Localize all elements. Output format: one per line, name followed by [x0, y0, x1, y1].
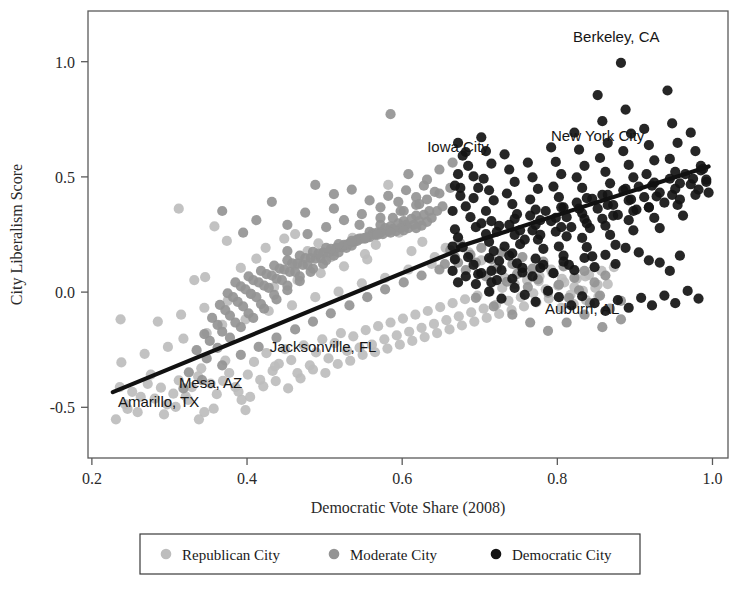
data-point [504, 164, 514, 174]
data-point [523, 158, 533, 168]
data-point [450, 254, 460, 264]
legend-label-1[interactable]: Republican City [182, 547, 280, 563]
data-point [414, 199, 424, 209]
data-point [525, 194, 535, 204]
data-point [354, 220, 364, 230]
data-point [662, 85, 672, 95]
data-point [256, 266, 266, 276]
annotation-label: Amarillo, TX [118, 393, 199, 410]
chart-legend[interactable]: Republican CityModerate CityDemocratic C… [140, 534, 640, 574]
data-point [489, 301, 499, 311]
data-point [579, 253, 589, 263]
data-point [649, 155, 659, 165]
data-point [407, 336, 417, 346]
data-point [577, 183, 587, 193]
data-point [507, 199, 517, 209]
data-point [174, 204, 184, 214]
data-point [579, 161, 589, 171]
legend-swatch-2 [329, 549, 340, 560]
data-point [494, 221, 504, 231]
data-point [600, 270, 610, 280]
data-point [362, 292, 372, 302]
data-point [476, 218, 486, 228]
data-point [156, 383, 166, 393]
data-point [380, 284, 390, 294]
data-point [347, 184, 357, 194]
data-point [434, 264, 444, 274]
data-point [287, 300, 297, 310]
data-point [473, 183, 483, 193]
data-point [361, 325, 371, 335]
data-point [486, 158, 496, 168]
data-point [600, 250, 610, 260]
data-point [486, 266, 496, 276]
data-point [613, 210, 623, 220]
data-point [178, 334, 188, 344]
data-point [579, 266, 589, 276]
data-point [209, 404, 219, 414]
data-point [373, 321, 383, 331]
data-point [510, 177, 520, 187]
data-point [636, 293, 646, 303]
data-point [610, 240, 620, 250]
data-point [574, 145, 584, 155]
data-point [236, 350, 246, 360]
data-point [572, 172, 582, 182]
data-point [600, 167, 610, 177]
data-point [254, 342, 264, 352]
data-point [423, 306, 433, 316]
data-point [647, 300, 657, 310]
data-point [339, 215, 349, 225]
chart-canvas: 0.20.40.60.81.01.00.50.0-0.5 Berkeley, C… [0, 0, 742, 603]
x-tick-label: 0.2 [82, 470, 102, 487]
scatter-plot-figure: 0.20.40.60.81.01.00.50.0-0.5 Berkeley, C… [0, 0, 742, 603]
data-point [589, 262, 599, 272]
data-point [628, 225, 638, 235]
data-point [329, 189, 339, 199]
data-point [339, 261, 349, 271]
data-point [209, 221, 219, 231]
data-point [461, 201, 471, 211]
data-point [401, 185, 411, 195]
data-point [333, 359, 343, 369]
data-point [375, 213, 385, 223]
data-point [453, 169, 463, 179]
data-point [520, 234, 530, 244]
data-point [465, 212, 475, 222]
data-point [641, 169, 651, 179]
data-point [541, 206, 551, 216]
annotation-label: Auburn, AL [545, 300, 619, 317]
data-point [159, 409, 169, 419]
data-point [375, 202, 385, 212]
data-point [502, 188, 512, 198]
data-point [504, 251, 514, 261]
data-point [484, 185, 494, 195]
data-point [670, 298, 680, 308]
data-point [628, 172, 638, 182]
x-axis-title: Democratic Vote Share (2008) [311, 499, 505, 517]
data-point [194, 414, 204, 424]
data-point [261, 243, 271, 253]
data-point [566, 222, 576, 232]
data-point [196, 363, 206, 373]
data-point [582, 218, 592, 228]
data-point [329, 204, 339, 214]
data-point [605, 230, 615, 240]
data-point [310, 180, 320, 190]
data-point [675, 194, 685, 204]
data-point [398, 314, 408, 324]
legend-label-2[interactable]: Moderate City [350, 547, 438, 563]
data-point [507, 274, 517, 284]
data-point [140, 349, 150, 359]
x-tick-label: 0.4 [237, 470, 257, 487]
data-point [457, 320, 467, 330]
data-point [597, 214, 607, 224]
annotation-label: Jacksonville, FL [270, 338, 377, 355]
legend-label-3[interactable]: Democratic City [512, 547, 612, 563]
data-point [665, 266, 675, 276]
data-point [471, 279, 481, 289]
data-point [510, 214, 520, 224]
data-point [416, 323, 426, 333]
data-point [290, 324, 300, 334]
data-point [251, 215, 261, 225]
